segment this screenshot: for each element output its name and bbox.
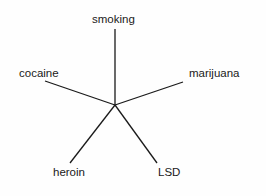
node-label-cocaine: cocaine xyxy=(19,68,59,80)
edge-heroin xyxy=(70,105,115,163)
node-label-lsd: LSD xyxy=(158,167,180,179)
edge-lsd xyxy=(115,105,157,163)
edge-marijuana xyxy=(115,82,183,105)
node-label-smoking: smoking xyxy=(92,14,135,26)
star-diagram xyxy=(0,0,266,196)
edge-cocaine xyxy=(45,81,115,105)
node-label-marijuana: marijuana xyxy=(189,68,240,80)
node-label-heroin: heroin xyxy=(53,167,85,179)
